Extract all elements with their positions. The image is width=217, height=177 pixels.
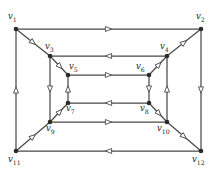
graph-vertex-v5 [66, 73, 71, 78]
vertex-label-subscript: 1 [13, 16, 17, 23]
vertex-label-v5: v5 [69, 62, 78, 73]
edge-arrowhead-left [105, 54, 111, 59]
edge-arrowhead-right [105, 73, 111, 78]
vertex-label-v10: v10 [157, 124, 170, 135]
edge-arrowhead-right [105, 27, 111, 32]
edge-arrowhead-up [66, 86, 71, 92]
edge-arrowhead-down [199, 87, 204, 93]
vertex-label-subscript: 9 [51, 128, 55, 135]
edge-arrowhead-down [48, 86, 53, 92]
vertex-label-v11: v11 [8, 155, 21, 166]
arrowhead-layer [14, 27, 204, 154]
node-layer [14, 27, 204, 154]
edge-arrowhead-down [147, 86, 152, 92]
vertex-label-v4: v4 [160, 42, 169, 53]
edge-layer [16, 29, 201, 151]
vertex-label-subscript: 3 [50, 46, 54, 53]
vertex-label-subscript: 4 [165, 46, 169, 53]
edge-arrowhead-up [165, 86, 170, 92]
vertex-label-subscript: 10 [162, 128, 170, 135]
vertex-label-v3: v3 [45, 42, 54, 53]
vertex-label-subscript: 7 [71, 108, 75, 115]
graph-vertex-v6 [147, 73, 152, 78]
graph-vertex-v3 [48, 54, 53, 59]
vertex-label-v9: v9 [46, 124, 55, 135]
graph-vertex-v2 [199, 27, 204, 32]
edge-arrowhead-up [14, 87, 19, 93]
vertex-label-subscript: 6 [141, 66, 145, 73]
vertex-label-v7: v7 [66, 104, 75, 115]
vertex-label-v2: v2 [196, 12, 205, 23]
edge-arrowhead-right [105, 120, 111, 125]
vertex-label-subscript: 11 [13, 159, 21, 166]
edge-arrowhead-left [105, 101, 111, 106]
graph-vertex-v4 [165, 54, 170, 59]
vertex-label-subscript: 12 [197, 159, 205, 166]
graph-vertex-v12 [199, 149, 204, 154]
graph-vertex-v11 [14, 149, 19, 154]
vertex-label-subscript: 5 [74, 66, 78, 73]
vertex-label-v6: v6 [136, 62, 145, 73]
vertex-label-v8: v8 [140, 104, 149, 115]
vertex-label-subscript: 2 [201, 16, 205, 23]
graph-vertex-v1 [14, 27, 19, 32]
graph-figure: v1v2v3v4v5v6v7v8v9v10v11v12 [0, 0, 217, 177]
graph-canvas [0, 0, 217, 177]
vertex-label-v1: v1 [8, 12, 17, 23]
vertex-label-subscript: 8 [145, 108, 149, 115]
edge-arrowhead-left [105, 149, 111, 154]
vertex-label-v12: v12 [192, 155, 205, 166]
